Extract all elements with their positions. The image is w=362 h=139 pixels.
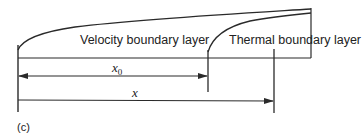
panel-label: (c) — [17, 121, 30, 133]
velocity-boundary-layer-label: Velocity boundary layer — [80, 33, 209, 47]
thermal-boundary-layer-label: Thermal boundary layer — [229, 33, 361, 47]
x0-label: x0 — [111, 60, 123, 77]
x-label: x — [131, 85, 138, 100]
x-dimension-arrow — [18, 100, 273, 101]
boundary-layer-diagram: Velocity boundary layer Thermal boundary… — [0, 0, 362, 139]
diagram-canvas: Velocity boundary layer Thermal boundary… — [0, 0, 362, 139]
